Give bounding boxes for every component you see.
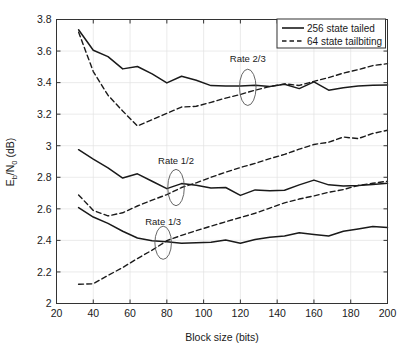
legend-label-2: 64 state tailbiting: [307, 36, 382, 47]
y-tick-label: 2.2: [37, 266, 52, 278]
y-tick-label: 2: [46, 297, 52, 309]
annotation-label-2: Rate 1/2: [158, 155, 194, 166]
x-tick-label: 20: [51, 307, 63, 319]
x-tick-label: 80: [161, 307, 173, 319]
chart-legend: 256 state tailed64 state tailbiting: [277, 19, 386, 48]
eb-n0-vs-block-size-chart: Rate 2/3Rate 1/2Rate 1/3 204060801001201…: [0, 0, 408, 352]
chart-background: [0, 0, 408, 352]
y-tick-label: 2.6: [37, 203, 52, 215]
y-tick-label: 2.8: [37, 171, 52, 183]
x-tick-label: 200: [379, 307, 397, 319]
legend-label-1: 256 state tailed: [307, 23, 375, 34]
x-tick-label: 100: [195, 307, 213, 319]
y-axis-title-main: E: [4, 179, 16, 186]
y-tick-label: 2.4: [37, 234, 52, 246]
chart-figure: Rate 2/3Rate 1/2Rate 1/3 204060801001201…: [0, 0, 408, 352]
y-tick-label: 3.6: [37, 45, 52, 57]
x-tick-label: 160: [305, 307, 323, 319]
y-tick-label: 3: [46, 140, 52, 152]
x-tick-label: 60: [124, 307, 136, 319]
x-tick-label: 120: [232, 307, 250, 319]
x-axis-title: Block size (bits): [185, 331, 259, 343]
y-axis-title-slash: /N: [4, 165, 16, 176]
y-tick-label: 3.8: [37, 13, 52, 25]
annotation-label-3: Rate 1/3: [145, 216, 181, 227]
y-tick-label: 3.2: [37, 108, 52, 120]
y-axis-title-units: (dB): [4, 138, 16, 161]
annotation-label-1: Rate 2/3: [230, 53, 266, 64]
x-tick-label: 180: [342, 307, 360, 319]
x-tick-label: 140: [268, 307, 286, 319]
y-tick-label: 3.4: [37, 76, 52, 88]
x-tick-label: 40: [87, 307, 99, 319]
